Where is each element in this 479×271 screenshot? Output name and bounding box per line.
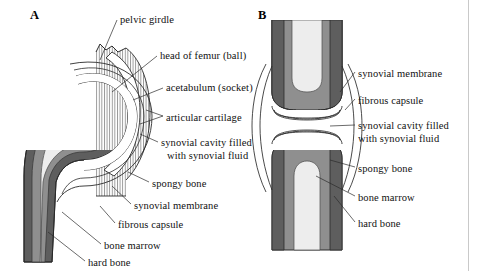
label-hard-bone: hard bone [88, 257, 131, 270]
label-hard-bone-b: hard bone [358, 218, 401, 231]
label-pelvic-girdle: pelvic girdle [120, 14, 174, 27]
label-synovial-cavity-b-line2: with synovial fluid [358, 133, 439, 146]
label-synovial-membrane: synovial membrane [134, 200, 218, 213]
lower-bone [272, 140, 342, 250]
panel-b-illustration [252, 20, 362, 250]
panel-letter-b: B [258, 8, 266, 23]
label-spongy-bone: spongy bone [152, 178, 206, 191]
label-head-of-femur: head of femur (ball) [160, 50, 246, 63]
figure-border [468, 0, 469, 271]
anatomy-figure: A B pelvic girdle head of femur (ball) a… [0, 0, 479, 271]
joint-cavity-b [270, 120, 344, 139]
label-synovial-cavity: synovial cavity filled [161, 137, 252, 150]
label-spongy-bone-b: spongy bone [358, 163, 412, 176]
label-bone-marrow: bone marrow [104, 240, 161, 253]
upper-articular-cartilage [274, 110, 340, 120]
label-fibrous-capsule: fibrous capsule [118, 219, 183, 232]
label-synovial-cavity-b: synovial cavity filled [358, 120, 449, 133]
label-fibrous-capsule-b: fibrous capsule [358, 95, 423, 108]
label-articular-cartilage: articular cartilage [166, 112, 242, 125]
label-bone-marrow-b: bone marrow [358, 192, 415, 205]
label-synovial-membrane-b: synovial membrane [358, 68, 442, 81]
panel-letter-a: A [30, 8, 39, 23]
label-synovial-cavity-line2: with synovial fluid [167, 150, 248, 163]
label-acetabulum: acetabulum (socket) [166, 82, 253, 95]
upper-bone [272, 20, 342, 110]
